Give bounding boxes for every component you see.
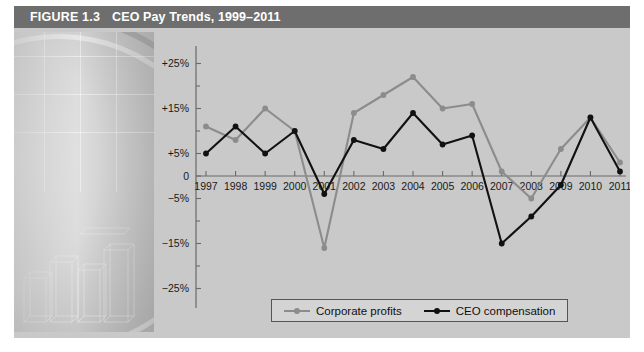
y-axis-tick-label: −15% [162, 237, 189, 249]
data-point-marker [262, 151, 268, 157]
x-axis-tick-label: 2003 [372, 180, 396, 192]
data-point-marker [410, 74, 416, 80]
data-point-marker [469, 133, 475, 139]
legend-marker-icon [284, 306, 310, 316]
legend-marker-icon [424, 306, 450, 316]
x-axis-tick-label: 1998 [224, 180, 248, 192]
x-axis-tick-label: 2007 [490, 180, 514, 192]
data-point-marker [440, 142, 446, 148]
data-series-line [206, 113, 620, 244]
y-axis-tick-label: −25% [162, 282, 189, 294]
data-point-marker [558, 146, 564, 152]
data-point-marker [440, 106, 446, 112]
chart-plot-area: +25%+15%+5%0−5%−15%−25%19971998199920002… [154, 32, 630, 332]
chart-legend: Corporate profits CEO compensation [271, 299, 568, 322]
data-point-marker [558, 182, 564, 188]
decorative-artwork-image [14, 32, 154, 332]
figure-container: FIGURE 1.3 CEO Pay Trends, 1999–2011 [0, 0, 644, 352]
x-axis-tick-label: 2011 [609, 180, 630, 192]
data-point-marker [321, 245, 327, 251]
data-point-marker [262, 106, 268, 112]
y-axis-tick-label: 0 [183, 170, 189, 182]
x-axis-tick-label: 1997 [194, 180, 218, 192]
data-point-marker [321, 191, 327, 197]
legend-item-corporate-profits[interactable]: Corporate profits [284, 305, 402, 317]
data-point-marker [233, 137, 239, 143]
y-axis-tick-label: +5% [168, 147, 189, 159]
data-point-marker [410, 110, 416, 116]
data-point-marker [203, 151, 209, 157]
data-point-marker [528, 196, 534, 202]
data-point-marker [351, 137, 357, 143]
legend-label: CEO compensation [456, 305, 556, 317]
legend-label: Corporate profits [316, 305, 402, 317]
data-point-marker [381, 92, 387, 98]
figure-title-bar: FIGURE 1.3 CEO Pay Trends, 1999–2011 [14, 6, 630, 28]
data-point-marker [617, 160, 623, 166]
x-axis-tick-label: 2002 [342, 180, 366, 192]
x-axis-tick-label: 2006 [460, 180, 484, 192]
x-axis-tick-label: 2000 [283, 180, 307, 192]
data-point-marker [233, 124, 239, 130]
x-axis-tick-label: 1999 [253, 180, 277, 192]
figure-number: FIGURE 1.3 [30, 10, 100, 24]
data-point-marker [381, 146, 387, 152]
data-point-marker [499, 241, 505, 247]
data-point-marker [351, 110, 357, 116]
data-series-line [206, 77, 620, 248]
data-point-marker [292, 128, 298, 134]
legend-item-ceo-compensation[interactable]: CEO compensation [424, 305, 556, 317]
data-point-marker [203, 124, 209, 130]
figure-title: CEO Pay Trends, 1999–2011 [112, 10, 281, 24]
data-point-marker [528, 214, 534, 220]
y-axis-tick-label: −5% [168, 192, 189, 204]
data-point-marker [588, 115, 594, 121]
x-axis-tick-label: 2005 [431, 180, 455, 192]
x-axis-tick-label: 2001 [313, 180, 337, 192]
y-axis-tick-label: +15% [162, 102, 189, 114]
data-point-marker [617, 169, 623, 175]
line-chart: +25%+15%+5%0−5%−15%−25%19971998199920002… [154, 32, 630, 332]
y-axis-tick-label: +25% [162, 57, 189, 69]
x-axis-tick-label: 2004 [401, 180, 425, 192]
data-point-marker [469, 101, 475, 107]
data-point-marker [499, 169, 505, 175]
x-axis-tick-label: 2010 [579, 180, 603, 192]
